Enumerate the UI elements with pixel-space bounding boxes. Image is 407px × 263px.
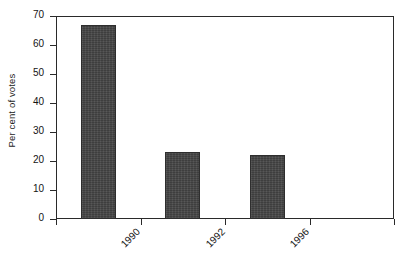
y-tick-label: 30 <box>33 125 44 136</box>
x-tick-label-1990: 1990 <box>119 226 143 250</box>
bar-1996 <box>250 155 285 219</box>
bar-1992 <box>165 152 200 219</box>
y-tick-label: 60 <box>33 38 44 49</box>
x-tick-mark <box>394 219 395 225</box>
x-tick-mark <box>310 219 311 225</box>
y-tick-label: 0 <box>38 212 44 223</box>
y-tick-label: 20 <box>33 154 44 165</box>
x-tick-label-1996: 1996 <box>288 226 312 250</box>
y-tick-label: 40 <box>33 96 44 107</box>
y-tick-mark <box>50 16 56 17</box>
y-tick-label: 10 <box>33 183 44 194</box>
x-tick-mark <box>141 219 142 225</box>
y-axis-title-text: Per cent of votes <box>7 73 18 147</box>
x-tick-mark <box>56 219 57 225</box>
bar-1990 <box>81 25 116 219</box>
x-tick-mark <box>225 219 226 225</box>
y-tick-mark <box>50 45 56 46</box>
y-tick-label: 70 <box>33 9 44 20</box>
y-tick-mark <box>50 161 56 162</box>
bar-chart-figure: Per cent of votes 010203040506070 199019… <box>0 0 407 263</box>
y-tick-mark <box>50 190 56 191</box>
y-tick-mark <box>50 74 56 75</box>
x-tick-label-1992: 1992 <box>203 226 227 250</box>
y-tick-label: 50 <box>33 67 44 78</box>
y-axis-title: Per cent of votes <box>0 0 24 220</box>
y-tick-mark <box>50 132 56 133</box>
y-tick-mark <box>50 103 56 104</box>
